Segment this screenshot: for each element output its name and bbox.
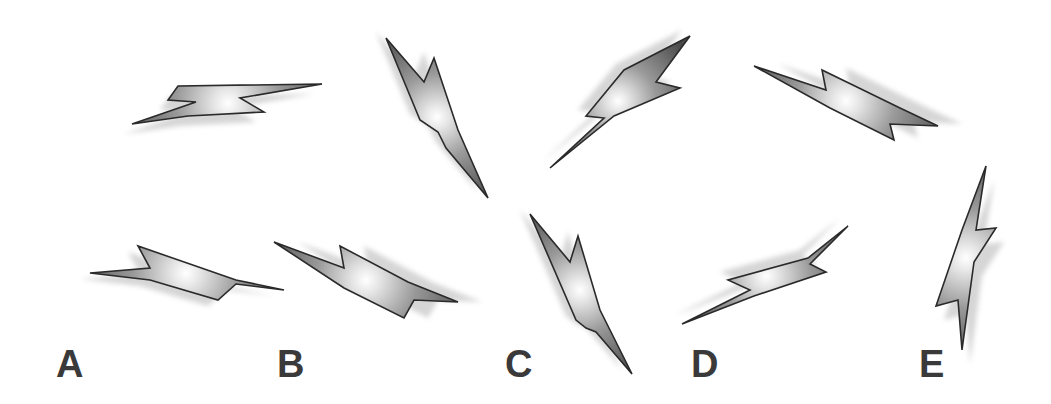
bolt-body bbox=[386, 38, 488, 198]
option-label-e: E bbox=[919, 345, 944, 383]
option-label-c: C bbox=[505, 345, 532, 383]
option-label-a: A bbox=[56, 345, 83, 383]
lightning-bolt-icon bbox=[124, 84, 322, 134]
lightning-bolt-icon bbox=[542, 30, 690, 168]
lightning-bolt-icon bbox=[80, 246, 284, 306]
puzzle-figure: A B C D E bbox=[0, 0, 1051, 404]
lightning-bolt-icon bbox=[274, 242, 482, 318]
option-label-d: D bbox=[691, 345, 718, 383]
lightning-bolt-icon bbox=[936, 166, 1004, 364]
lightning-bolt-icon bbox=[674, 218, 848, 324]
option-label-b: B bbox=[277, 345, 304, 383]
lightning-bolt-icon bbox=[376, 32, 488, 198]
bolt-body bbox=[682, 226, 848, 324]
bolt-body bbox=[530, 214, 632, 374]
bolt-body bbox=[550, 36, 690, 168]
lightning-bolt-icon bbox=[520, 210, 632, 374]
lightning-bolt-icon bbox=[754, 64, 962, 140]
